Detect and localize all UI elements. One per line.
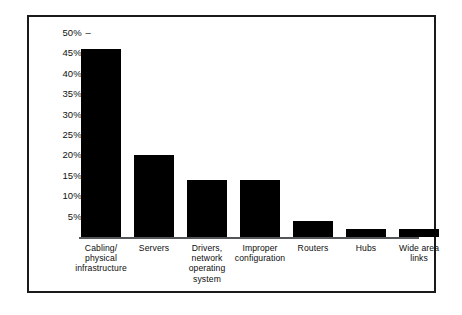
x-axis-label-line: infrastructure [71,263,132,273]
x-axis-label-line: Cabling/ [71,243,132,253]
x-axis-label: Routers [283,243,344,253]
plot-area: 50%–45%–40%–35%–30%–25%–20%–15%–10%–5%– … [29,17,434,291]
x-axis-label-line: links [389,253,450,263]
x-axis-label-line: operating [177,263,238,273]
x-axis-label: Drivers,networkoperatingsystem [177,243,238,284]
x-axis-label: Servers [124,243,185,253]
x-axis-label-line: Hubs [336,243,397,253]
bar [187,180,227,237]
x-axis-label-line: Improper [230,243,291,253]
x-axis-label-line: system [177,274,238,284]
x-axis-label: Wide arealinks [389,243,450,263]
x-axis-label: Improperconfiguration [230,243,291,263]
x-axis-label-line: Wide area [389,243,450,253]
x-axis-baseline [79,237,419,239]
x-axis-label-line: configuration [230,253,291,263]
bar [81,49,121,237]
x-axis-labels: Cabling/physicalinfrastructureServersDri… [29,243,434,293]
bar [134,155,174,237]
x-axis-label-line: network [177,253,238,263]
bar [399,229,439,237]
bar [293,221,333,237]
x-axis-label-line: Servers [124,243,185,253]
x-axis-label: Cabling/physicalinfrastructure [71,243,132,274]
x-axis-label-line: Routers [283,243,344,253]
bar [346,229,386,237]
bar [240,180,280,237]
bars-group [29,17,434,237]
x-axis-label-line: Drivers, [177,243,238,253]
x-axis-label-line: physical [71,253,132,263]
x-axis-label: Hubs [336,243,397,253]
chart-frame: 50%–45%–40%–35%–30%–25%–20%–15%–10%–5%– … [27,15,436,293]
